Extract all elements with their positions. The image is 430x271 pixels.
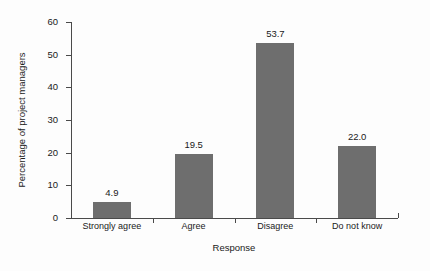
x-tick-label: Do not know	[332, 222, 382, 231]
y-tick-label: 60	[47, 17, 58, 27]
bar	[93, 202, 131, 218]
y-axis-line	[71, 22, 72, 218]
y-tick: 30	[66, 120, 71, 121]
y-tick-label: 0	[53, 213, 58, 223]
bar	[175, 154, 213, 218]
x-axis-cap	[398, 213, 399, 218]
y-tick-label: 20	[47, 148, 58, 158]
plot-area: 0102030405060 4.9Strongly agree19.5Agree…	[71, 22, 398, 218]
bar-value-label: 4.9	[105, 188, 118, 198]
y-tick: 0	[66, 218, 71, 219]
bar-chart: Percentage of project managers Response …	[0, 0, 430, 271]
bar-value-label: 22.0	[348, 132, 367, 142]
x-tick-label: Agree	[182, 222, 206, 231]
y-tick-label: 40	[47, 83, 58, 93]
bar-value-label: 19.5	[184, 140, 203, 150]
x-tick	[316, 218, 317, 223]
y-axis-title: Percentage of project managers	[17, 52, 27, 187]
y-tick-label: 30	[47, 115, 58, 125]
bar-value-label: 53.7	[266, 29, 285, 39]
x-tick	[235, 218, 236, 223]
y-tick: 50	[66, 55, 71, 56]
y-tick: 60	[66, 22, 71, 23]
x-tick-label: Strongly agree	[83, 222, 142, 231]
bar	[338, 146, 376, 218]
x-tick-label: Disagree	[257, 222, 293, 231]
x-axis-cap	[71, 213, 72, 218]
bar	[256, 43, 294, 218]
x-axis-title: Response	[213, 243, 256, 253]
x-tick	[153, 218, 154, 223]
y-tick: 10	[66, 185, 71, 186]
y-tick-label: 10	[47, 181, 58, 191]
y-tick: 20	[66, 153, 71, 154]
y-tick: 40	[66, 87, 71, 88]
y-tick-label: 50	[47, 50, 58, 60]
